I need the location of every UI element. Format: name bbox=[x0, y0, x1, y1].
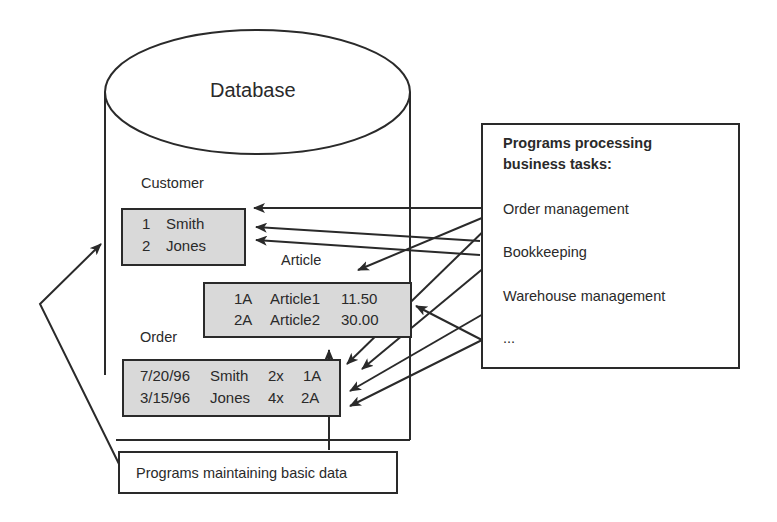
database-title: Database bbox=[210, 79, 296, 102]
program-bookkeeping: Bookkeeping bbox=[503, 244, 587, 260]
program-others-ellipsis: ... bbox=[503, 330, 515, 346]
order-customer: Jones bbox=[210, 389, 250, 406]
article-id: 1A bbox=[234, 290, 252, 307]
order-customer: Smith bbox=[210, 367, 248, 384]
customer-table: 1 Smith 2 Jones bbox=[121, 208, 246, 266]
article-price: 30.00 bbox=[341, 311, 379, 328]
customer-table-label: Customer bbox=[141, 175, 204, 191]
customer-name: Smith bbox=[166, 215, 204, 232]
order-table-label: Order bbox=[140, 329, 177, 345]
customer-id: 1 bbox=[142, 215, 150, 232]
order-article: 2A bbox=[301, 389, 319, 406]
program-warehouse-management: Warehouse management bbox=[503, 288, 665, 304]
article-id: 2A bbox=[234, 311, 252, 328]
article-price: 11.50 bbox=[341, 290, 377, 307]
business-programs-heading-line2: business tasks: bbox=[503, 156, 612, 172]
article-table: 1A Article1 11.50 2A Article2 30.00 bbox=[203, 282, 412, 338]
arrows-maintenance-programs bbox=[40, 244, 329, 466]
order-quantity: 4x bbox=[268, 389, 284, 406]
order-article: 1A bbox=[303, 367, 321, 384]
order-date: 7/20/96 bbox=[140, 367, 190, 384]
article-name: Article1 bbox=[270, 290, 320, 307]
customer-name: Jones bbox=[166, 237, 206, 254]
article-name: Article2 bbox=[270, 311, 320, 328]
program-order-management: Order management bbox=[503, 201, 629, 217]
maintenance-programs-label: Programs maintaining basic data bbox=[136, 465, 347, 481]
customer-id: 2 bbox=[142, 237, 150, 254]
article-table-label: Article bbox=[281, 252, 321, 268]
order-table: 7/20/96 Smith 2x 1A 3/15/96 Jones 4x 2A bbox=[122, 359, 341, 417]
business-programs-heading-line1: Programs processing bbox=[503, 135, 652, 151]
business-programs-box: Programs processing business tasks: Orde… bbox=[481, 123, 740, 369]
order-date: 3/15/96 bbox=[140, 389, 190, 406]
maintenance-programs-box: Programs maintaining basic data bbox=[118, 451, 398, 494]
order-quantity: 2x bbox=[268, 367, 284, 384]
